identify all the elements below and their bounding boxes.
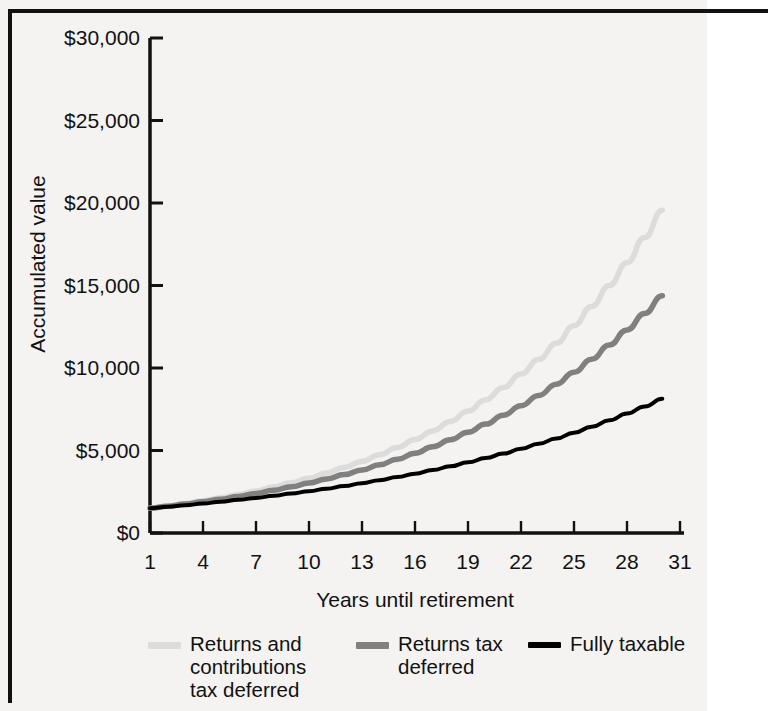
chart-legend: Returns and contributions tax deferredRe… [148, 633, 693, 709]
axis-tick-marks [150, 38, 680, 533]
legend-entry: Returns and contributions tax deferred [148, 633, 356, 702]
legend-entry: Returns tax deferred [356, 633, 528, 679]
legend-color-swatch-icon [528, 642, 561, 648]
legend-label: Fully taxable [570, 633, 685, 656]
legend-color-swatch-icon [148, 642, 181, 649]
legend-color-swatch-icon [356, 642, 389, 649]
legend-label: Returns and contributions tax deferred [190, 633, 306, 702]
legend-entry: Fully taxable [528, 633, 693, 656]
legend-label: Returns tax deferred [398, 633, 503, 679]
data-series-group [150, 210, 662, 508]
